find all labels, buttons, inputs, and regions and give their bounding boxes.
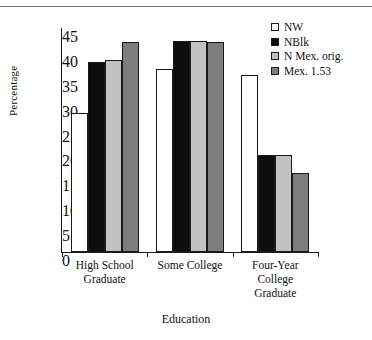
x-category-label-line: Graduate — [221, 286, 330, 300]
bar-mex-1-53 — [122, 42, 139, 252]
chart-legend: NWNBlkN Mex. orig.Mex. 1.53 — [271, 20, 343, 78]
bar-group — [147, 28, 232, 252]
legend-item: NBlk — [271, 35, 343, 50]
y-axis-label: Percentage — [7, 0, 19, 116]
x-group-separator-tick — [147, 252, 148, 257]
legend-label: NW — [284, 20, 303, 35]
x-category-label: Four-YearCollegeGraduate — [221, 258, 330, 300]
top-divider-rule — [0, 6, 372, 7]
bar-n-mex-orig — [105, 60, 122, 252]
legend-swatch-icon — [271, 23, 279, 31]
x-group-separator-tick — [233, 252, 234, 257]
legend-label: NBlk — [284, 35, 309, 50]
bar-group — [62, 28, 147, 252]
bar-nw — [156, 69, 173, 252]
bar-n-mex-orig — [275, 155, 292, 252]
bar-nblk — [258, 155, 275, 252]
x-category-label-line: Graduate — [50, 272, 159, 286]
bar-nblk — [88, 62, 105, 252]
bar-mex-1-53 — [207, 42, 224, 252]
bar-nw — [71, 113, 88, 252]
legend-swatch-icon — [271, 67, 279, 75]
bar-mex-1-53 — [292, 173, 309, 252]
legend-item: Mex. 1.53 — [271, 64, 343, 79]
x-category-label-line: College — [221, 272, 330, 286]
legend-label: N Mex. orig. — [284, 49, 343, 64]
x-category-label-line: Four-Year — [221, 258, 330, 272]
legend-swatch-icon — [271, 52, 279, 60]
bar-chart-figure: Percentage 454035302520151050 High Schoo… — [0, 0, 372, 340]
legend-item: NW — [271, 20, 343, 35]
x-axis-line — [61, 252, 319, 253]
x-axis-label: Education — [0, 312, 372, 327]
x-axis-end-tick — [62, 252, 63, 257]
x-axis-end-tick — [318, 252, 319, 257]
bar-n-mex-orig — [190, 41, 207, 252]
bar-nw — [241, 75, 258, 252]
legend-swatch-icon — [271, 38, 279, 46]
bar-nblk — [173, 41, 190, 252]
legend-item: N Mex. orig. — [271, 49, 343, 64]
legend-label: Mex. 1.53 — [284, 64, 331, 79]
